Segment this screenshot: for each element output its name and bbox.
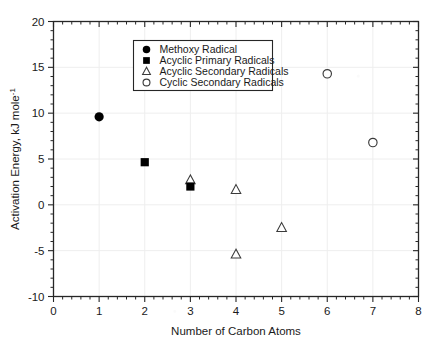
x-axis-title: Number of Carbon Atoms [171, 325, 301, 337]
marker-filled-circle [95, 112, 104, 121]
y-axis-title: Activation Energy, kJ mole-1 [8, 88, 21, 230]
marker-open-circle [369, 138, 377, 146]
x-tick-label: 7 [370, 305, 376, 317]
marker-filled-square [143, 57, 150, 64]
series-filled-circle [95, 112, 104, 121]
y-tick-label: 15 [32, 61, 45, 73]
x-tick-label: 1 [96, 305, 102, 317]
x-tick-label: 4 [233, 305, 240, 317]
marker-open-circle [323, 70, 331, 78]
legend-item-label: Cyclic Secondary Radicals [160, 76, 284, 88]
marker-filled-square [141, 158, 149, 166]
x-tick-labels: 012345678 [50, 305, 421, 317]
y-tick-label: 20 [32, 16, 45, 28]
x-tick-label: 6 [324, 305, 330, 317]
y-tick-label: -10 [28, 291, 45, 303]
marker-open-circle [143, 79, 150, 86]
legend-item[interactable]: Cyclic Secondary Radicals [143, 76, 284, 88]
x-tick-label: 2 [142, 305, 148, 317]
x-tick-label: 3 [187, 305, 193, 317]
marker-filled-square [186, 182, 194, 190]
x-tick-label: 5 [278, 305, 284, 317]
y-tick-label: 5 [38, 153, 44, 165]
marker-filled-circle [143, 46, 151, 54]
activation-energy-scatter-plot: 012345678-10-505101520Number of Carbon A… [0, 0, 437, 346]
y-tick-label: -5 [34, 245, 44, 257]
y-tick-label: 10 [32, 107, 45, 119]
x-tick-label: 8 [415, 305, 421, 317]
y-tick-label: 0 [38, 199, 44, 211]
legend: Methoxy RadicalAcyclic Primary RadicalsA… [134, 41, 289, 91]
y-tick-labels: -10-505101520 [28, 16, 45, 303]
x-tick-label: 0 [50, 305, 56, 317]
scatter-chart-figure: 012345678-10-505101520Number of Carbon A… [0, 0, 437, 346]
